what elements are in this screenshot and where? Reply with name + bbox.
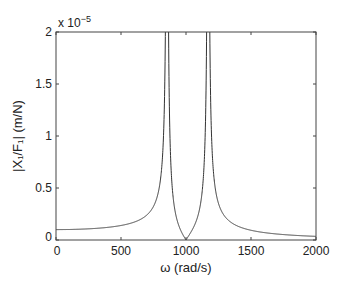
x-tick-label: 1500 <box>238 244 265 258</box>
axes-box <box>56 32 316 240</box>
y-tick-label: 0.5 <box>35 181 52 195</box>
x-tick-label: 2000 <box>303 244 330 258</box>
x-axis-ticks: 0500100015002000 <box>54 32 330 258</box>
chart: 0500100015002000 00.511.52 x 10−5 ω (rad… <box>0 0 345 289</box>
y-tick-label: 0 <box>45 230 52 244</box>
x-tick-label: 500 <box>111 244 131 258</box>
y-axis-label: |X₁/F₁| (m/N) <box>10 100 25 172</box>
x-tick-label: 1000 <box>173 244 200 258</box>
x-axis-label: ω (rad/s) <box>160 260 211 275</box>
y-tick-label: 1 <box>45 129 52 143</box>
x-tick-label: 0 <box>54 244 61 258</box>
y-axis-ticks: 00.511.52 <box>35 25 316 244</box>
response-curve <box>56 0 316 240</box>
y-multiplier: x 10−5 <box>58 14 91 30</box>
y-tick-label: 1.5 <box>35 77 52 91</box>
plot-area <box>56 0 316 240</box>
y-tick-label: 2 <box>45 25 52 39</box>
